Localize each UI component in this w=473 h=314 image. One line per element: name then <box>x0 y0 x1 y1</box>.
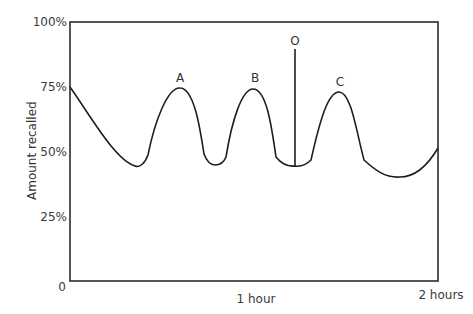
marker-o-label: O <box>290 34 299 48</box>
y-tick-75: 75% <box>40 80 67 94</box>
y-tick-50: 50% <box>40 145 67 159</box>
peak-b-label: B <box>251 71 259 85</box>
y-tick-100: 100% <box>33 15 67 29</box>
x-tick-1-hour: 1 hour <box>237 292 276 306</box>
y-tick-25: 25% <box>40 210 67 224</box>
y-tick-0: 0 <box>58 280 66 294</box>
recall-curve <box>70 87 438 177</box>
y-axis-label: Amount recalled <box>25 101 39 200</box>
peak-c-label: C <box>336 75 344 89</box>
peak-a-label: A <box>176 71 185 85</box>
x-tick-2-hours: 2 hours <box>418 288 463 302</box>
plot-frame <box>70 22 438 281</box>
recall-chart: 100% 75% 50% 25% 0 Amount recalled 1 hou… <box>0 0 473 314</box>
